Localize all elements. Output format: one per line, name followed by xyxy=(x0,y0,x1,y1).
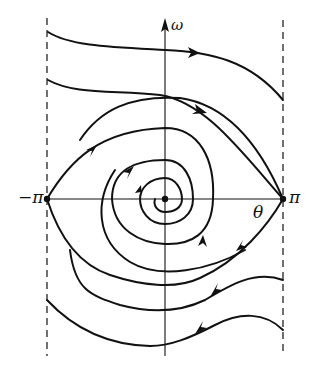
theta-axis-label: θ xyxy=(253,202,263,222)
arrow-icon-bottom-1 xyxy=(210,283,222,297)
pi-label: π xyxy=(289,187,300,207)
stable-focus-point xyxy=(162,196,168,202)
minus-pi-label: −π xyxy=(18,187,43,207)
trajectory-bottom-1 xyxy=(70,250,283,310)
phase-portrait xyxy=(0,0,315,376)
trajectory-inner-spiral-2 xyxy=(80,98,283,199)
saddle-point-right xyxy=(280,196,286,202)
omega-axis-label: ω xyxy=(171,16,183,34)
arrow-icon-spiral-lower xyxy=(198,235,207,247)
trajectory-inner-lower xyxy=(101,170,245,271)
trajectory-separatrix-spiral xyxy=(47,128,213,244)
saddle-point-left xyxy=(44,196,50,202)
